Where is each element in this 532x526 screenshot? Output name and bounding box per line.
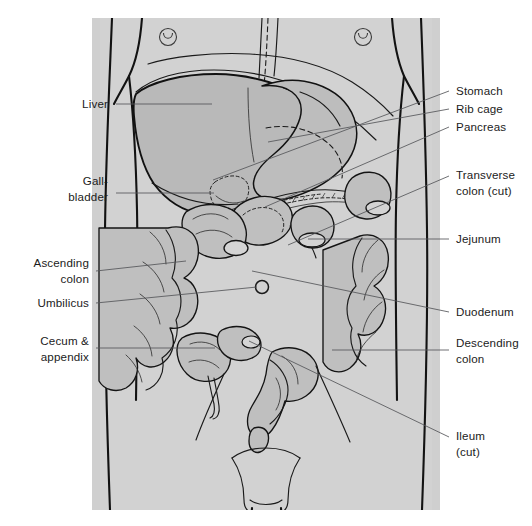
label-stomach: Stomach [456, 84, 503, 97]
label-line: Ascending [34, 256, 90, 269]
label-line: bladder [68, 190, 108, 203]
label-line: Liver [82, 97, 108, 110]
label-line: Transverse [456, 168, 515, 181]
label-duodenum: Duodenum [456, 305, 514, 318]
label-line: colon [61, 272, 89, 285]
label-line: Descending [456, 336, 519, 349]
label-line: Duodenum [456, 305, 514, 318]
thigh-inner-right [281, 508, 285, 526]
anatomy-diagram-canvas: LiverGall-bladderAscendingcolonUmbilicus… [0, 0, 532, 526]
label-jejunum: Jejunum [456, 232, 501, 245]
label-line: colon [456, 352, 484, 365]
label-line: colon (cut) [456, 184, 512, 197]
label-cecum-appendix: Cecum &appendix [40, 334, 89, 363]
label-line: Jejunum [456, 232, 501, 245]
label-ileum-cut: Ileum(cut) [456, 429, 485, 458]
transverse-colon-cut-end [224, 241, 248, 256]
label-line: Pancreas [456, 120, 506, 133]
label-line: (cut) [456, 445, 480, 458]
anatomy-artwork [99, 18, 432, 526]
label-line: appendix [41, 350, 89, 363]
label-pancreas: Pancreas [456, 120, 506, 133]
label-line: Ileum [456, 429, 485, 442]
thigh-inner-left [248, 508, 252, 526]
label-liver: Liver [82, 97, 108, 110]
label-ascending-colon: Ascendingcolon [34, 256, 90, 285]
label-line: Stomach [456, 84, 503, 97]
anatomy-figure: LiverGall-bladderAscendingcolonUmbilicus… [0, 0, 532, 526]
label-descending-colon: Descendingcolon [456, 336, 519, 365]
label-line: Cecum & [40, 334, 89, 347]
labels-right: StomachRib cagePancreasTransversecolon (… [456, 84, 519, 458]
label-line: Gall- [83, 174, 108, 187]
label-rib-cage: Rib cage [456, 102, 503, 115]
label-transverse-colon: Transversecolon (cut) [456, 168, 515, 197]
label-umbilicus: Umbilicus [37, 296, 89, 309]
label-line: Umbilicus [37, 296, 89, 309]
label-line: Rib cage [456, 102, 503, 115]
